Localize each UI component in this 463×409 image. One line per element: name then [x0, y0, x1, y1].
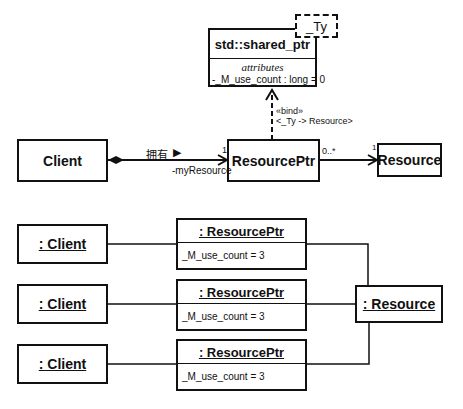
- resource-class: Resource: [377, 143, 442, 177]
- composition-diamond-icon: [108, 156, 124, 164]
- client-object-2: : Client: [17, 284, 108, 324]
- resource-ptr-object-1: : ResourcePtr _M_use_count = 3: [176, 218, 307, 270]
- resource-ptr-object-3: : ResourcePtr _M_use_count = 3: [176, 339, 307, 391]
- resource-class-name: Resource: [378, 152, 442, 168]
- composition-multiplicity: 1: [222, 145, 227, 155]
- link-ptr1-resource: [307, 244, 368, 285]
- resource-ptr-object-attribute: _M_use_count = 3: [178, 364, 305, 382]
- bind-stereotype-label: «bind»: [276, 106, 303, 116]
- client-object-3: : Client: [17, 344, 108, 384]
- resource-ptr-object-attribute: _M_use_count = 3: [178, 304, 305, 322]
- resource-ptr-object-name: : ResourcePtr: [178, 341, 305, 364]
- client-object-name: : Client: [39, 296, 86, 312]
- client-object-name: : Client: [39, 236, 86, 252]
- composition-label: 拥有: [146, 146, 168, 162]
- resource-ptr-object-name: : ResourcePtr: [178, 220, 305, 243]
- client-object-1: : Client: [17, 224, 108, 264]
- resource-ptr-class: ResourcePtr: [227, 139, 320, 182]
- resource-ptr-class-name: ResourcePtr: [232, 153, 315, 169]
- resource-ptr-object-2: : ResourcePtr _M_use_count = 3: [176, 279, 307, 331]
- resource-ptr-object-attribute: _M_use_count = 3: [178, 243, 305, 261]
- role-name-label: -myResource: [172, 165, 231, 176]
- association-target-multiplicity: 1: [372, 143, 376, 152]
- client-object-name: : Client: [39, 356, 86, 372]
- template-parameter-box: _Ty: [295, 14, 338, 38]
- client-class: Client: [17, 139, 108, 182]
- attributes-section-label: attributes: [210, 61, 315, 73]
- resource-ptr-object-name: : ResourcePtr: [178, 281, 305, 304]
- use-count-attribute: -_M_use_count : long = 0: [210, 74, 315, 85]
- link-ptr3-resource: [307, 322, 369, 364]
- bind-binding-label: <_Ty -> Resource>: [276, 116, 353, 126]
- client-class-name: Client: [43, 153, 82, 169]
- direction-triangle-icon: ▶: [173, 146, 181, 159]
- resource-object: : Resource: [355, 285, 443, 323]
- resource-object-name: : Resource: [363, 296, 435, 312]
- association-source-multiplicity: 0..*: [322, 146, 336, 156]
